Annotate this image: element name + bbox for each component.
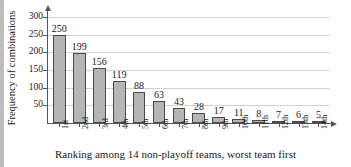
x-tick-label: 9th [222, 119, 230, 129]
bar [113, 81, 126, 123]
chart-figure: Frequency of combinations 50100150200250… [0, 0, 351, 167]
y-tick-label-wrap: 200 [0, 47, 43, 56]
y-tick-label: 300 [3, 12, 43, 21]
bar-series: 2501991561198863432817118765 [47, 10, 337, 123]
x-tick-mark [259, 123, 260, 127]
x-tick-label: 7th [182, 119, 190, 129]
x-tick-label: 2nd [82, 117, 90, 129]
x-tick-mark [219, 123, 220, 127]
bar-value-label: 199 [65, 42, 93, 52]
y-tick-label-wrap: 300 [0, 12, 43, 21]
x-tick-label: 14th [321, 115, 329, 129]
x-tick-label: 4th [122, 119, 130, 129]
bar-value-label: 119 [105, 70, 133, 80]
y-tick-label: 50 [3, 100, 43, 109]
x-tick-label: 3rd [102, 118, 110, 129]
x-tick-label: 11th [262, 115, 270, 129]
x-tick-label: 8th [202, 119, 210, 129]
x-tick-mark [239, 123, 240, 127]
x-tick-mark [139, 123, 140, 127]
x-tick-mark [279, 123, 280, 127]
y-tick-label: 150 [3, 65, 43, 74]
x-tick-mark [119, 123, 120, 127]
x-tick-mark [199, 123, 200, 127]
y-tick-label: 100 [3, 83, 43, 92]
x-tick-mark [159, 123, 160, 127]
x-tick-mark [299, 123, 300, 127]
y-tick-label: 200 [3, 47, 43, 56]
x-tick-label: 13th [302, 115, 310, 129]
x-tick-label: 5th [142, 119, 150, 129]
y-tick-label-wrap: 50 [0, 100, 43, 109]
x-tick-label: 12th [282, 115, 290, 129]
x-axis-title: Ranking among 14 non-playoff teams, wors… [0, 148, 351, 160]
x-tick-label: 1st [62, 120, 70, 129]
y-tick-label-wrap: 100 [0, 83, 43, 92]
x-tick-label: 10th [242, 115, 250, 129]
x-tick-mark [179, 123, 180, 127]
y-tick-label-wrap: 150 [0, 65, 43, 74]
x-tick-label: 6th [162, 119, 170, 129]
bar-value-label: 250 [45, 24, 73, 34]
bar [93, 68, 106, 123]
bar [53, 35, 66, 123]
y-tick-label-wrap: 250 [0, 30, 43, 39]
y-tick-label: 250 [3, 30, 43, 39]
bar-value-label: 156 [85, 57, 113, 67]
bar [73, 53, 86, 123]
